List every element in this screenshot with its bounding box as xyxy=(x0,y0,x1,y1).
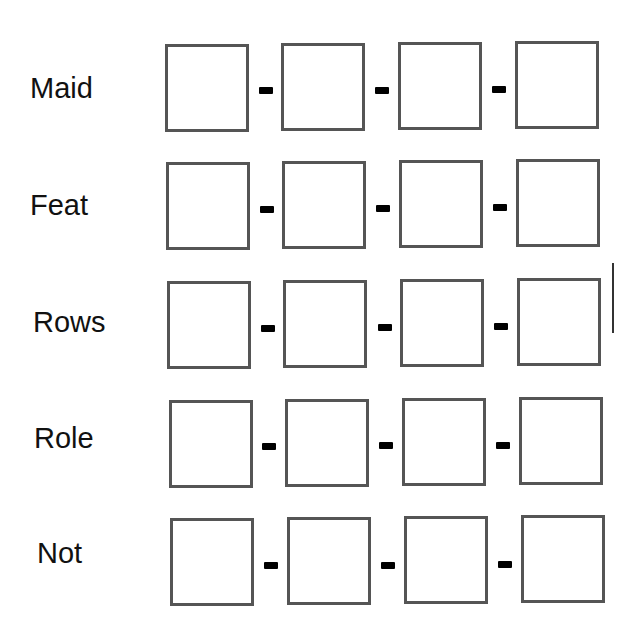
dash-separator xyxy=(498,561,512,568)
word-label: Not xyxy=(37,539,82,568)
letter-box-1[interactable] xyxy=(169,400,253,488)
letter-box-3[interactable] xyxy=(399,160,483,248)
letter-box-1[interactable] xyxy=(166,162,250,250)
dash-separator xyxy=(381,562,395,569)
page-edge-line xyxy=(612,263,614,333)
dash-separator xyxy=(260,206,274,213)
dash-separator xyxy=(494,323,508,330)
letter-box-4[interactable] xyxy=(517,278,601,366)
letter-box-2[interactable] xyxy=(282,161,366,249)
letter-box-3[interactable] xyxy=(400,279,484,367)
word-label: Feat xyxy=(30,191,88,220)
letter-box-4[interactable] xyxy=(521,515,605,603)
letter-box-2[interactable] xyxy=(283,280,367,368)
dash-separator xyxy=(378,324,392,331)
letter-box-1[interactable] xyxy=(170,518,254,606)
dash-separator xyxy=(496,442,510,449)
letter-box-1[interactable] xyxy=(167,281,251,369)
letter-box-2[interactable] xyxy=(285,399,369,487)
letter-box-3[interactable] xyxy=(404,516,488,604)
letter-box-4[interactable] xyxy=(516,159,600,247)
word-label: Rows xyxy=(33,308,106,337)
dash-separator xyxy=(493,204,507,211)
letter-box-4[interactable] xyxy=(519,397,603,485)
dash-separator xyxy=(264,562,278,569)
dash-separator xyxy=(262,443,276,450)
dash-separator xyxy=(261,325,275,332)
dash-separator xyxy=(379,442,393,449)
dash-separator xyxy=(376,205,390,212)
word-row-not: Not xyxy=(0,0,643,100)
letter-box-2[interactable] xyxy=(287,517,371,605)
letter-box-3[interactable] xyxy=(402,398,486,486)
word-label: Role xyxy=(34,424,94,453)
